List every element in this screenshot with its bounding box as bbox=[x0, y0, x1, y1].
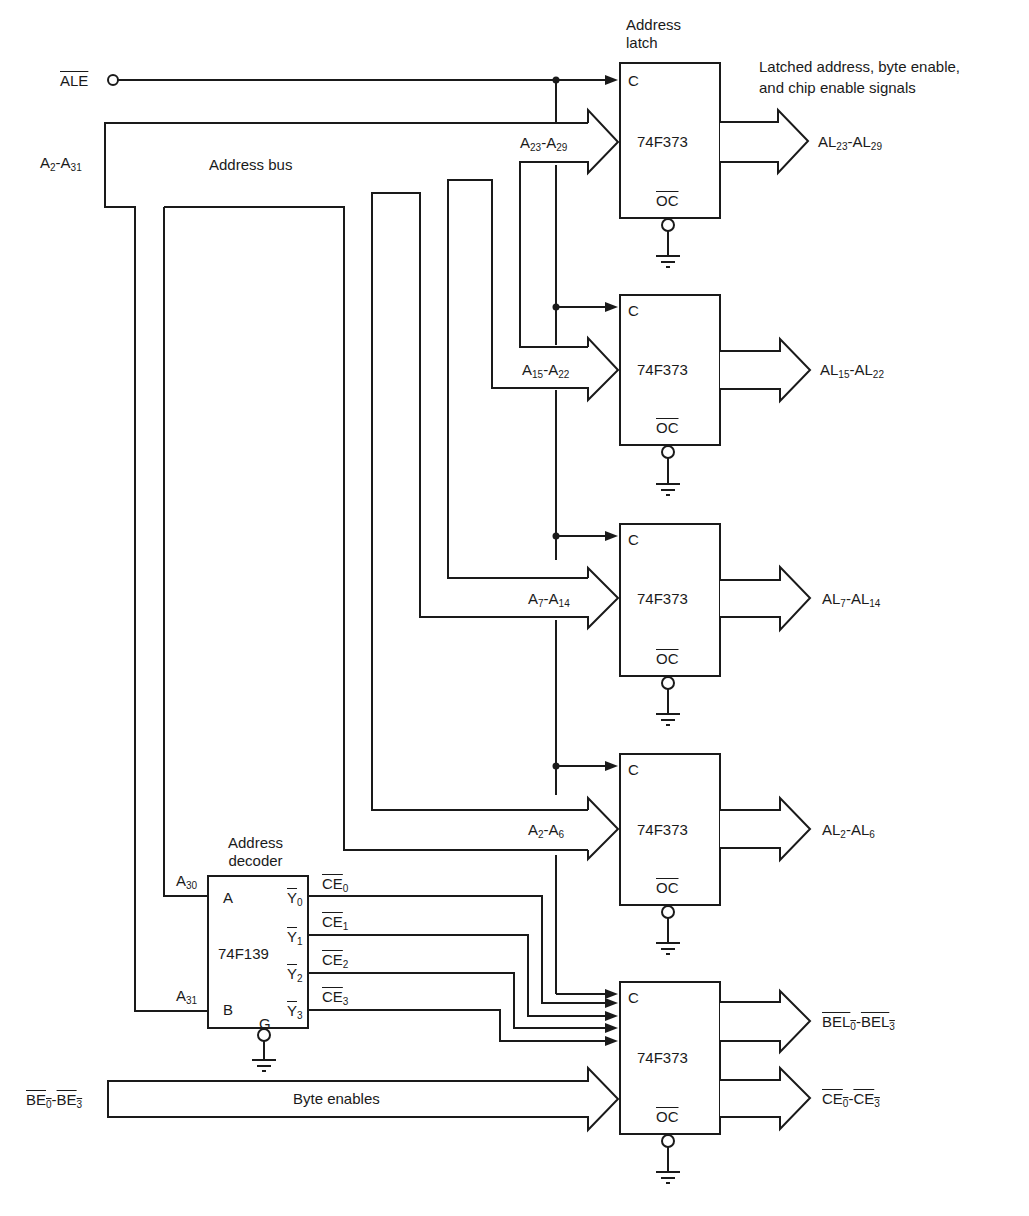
latch-title: Addresslatch bbox=[626, 16, 681, 52]
signal-ce0: CE0 bbox=[322, 876, 348, 894]
bus-label-a7-a14: A7-A14 bbox=[528, 591, 570, 609]
chip-label: 74F373 bbox=[637, 822, 688, 837]
decoder-input-a30: A30 bbox=[176, 873, 197, 891]
pin-y1: Y1 bbox=[287, 929, 303, 947]
output-al7-al14: AL7-AL14 bbox=[822, 591, 880, 609]
pin-y3: Y3 bbox=[287, 1003, 303, 1021]
clock-pin-label: C bbox=[628, 73, 639, 88]
pin-b-label: B bbox=[223, 1002, 233, 1017]
chip-label: 74F373 bbox=[637, 591, 688, 606]
oc-pin-label: OC bbox=[656, 1109, 679, 1124]
ale-label: ALE bbox=[60, 73, 88, 88]
outputs-caption: Latched address, byte enable,and chip en… bbox=[759, 56, 960, 98]
output-bel0-bel3: BEL0-BEL3 bbox=[822, 1014, 895, 1032]
output-ce0-ce3: CE0-CE3 bbox=[822, 1091, 880, 1109]
enable-pin-label: G bbox=[259, 1016, 271, 1031]
signal-ce2: CE2 bbox=[322, 952, 348, 970]
output-al2-al6: AL2-AL6 bbox=[822, 822, 875, 840]
bus-arrow-a7-a14 bbox=[372, 193, 618, 810]
bus-label-a23-a29: A23-A29 bbox=[520, 135, 567, 153]
clock-pin-label: C bbox=[628, 990, 639, 1005]
arrow-icon bbox=[605, 75, 618, 85]
signal-ce1: CE1 bbox=[322, 914, 348, 932]
decoder-input-a31: A31 bbox=[176, 988, 197, 1006]
address-bus-name: Address bus bbox=[209, 157, 292, 172]
decoder-title: Addressdecoder bbox=[228, 834, 283, 870]
oc-pin-label: OC bbox=[656, 880, 679, 895]
oc-pin-label: OC bbox=[656, 193, 679, 208]
byte-enables-signal-label: BE0-BE3 bbox=[26, 1092, 82, 1110]
clock-pin-label: C bbox=[628, 303, 639, 318]
oc-pin-label: OC bbox=[656, 420, 679, 435]
pin-y2: Y2 bbox=[287, 966, 303, 984]
oc-pin-label: OC bbox=[656, 651, 679, 666]
bus-arrow-a2-a6 bbox=[588, 798, 618, 859]
decoder-chip-label: 74F139 bbox=[218, 946, 269, 961]
address-bus-signal-label: A2-A31 bbox=[40, 155, 82, 173]
output-al15-al22: AL15-AL22 bbox=[820, 362, 884, 380]
ale-input-bubble bbox=[108, 75, 118, 85]
pin-y0: Y0 bbox=[287, 890, 303, 908]
output-al23-al29: AL23-AL29 bbox=[818, 134, 882, 152]
clock-pin-label: C bbox=[628, 532, 639, 547]
byte-enables-name: Byte enables bbox=[293, 1091, 380, 1106]
clock-pin-label: C bbox=[628, 762, 639, 777]
pin-a-label: A bbox=[223, 890, 233, 905]
chip-label: 74F373 bbox=[637, 134, 688, 149]
bus-label-a15-a22: A15-A22 bbox=[522, 362, 569, 380]
chip-label: 74F373 bbox=[637, 1050, 688, 1065]
chip-label: 74F373 bbox=[637, 362, 688, 377]
signal-ce3: CE3 bbox=[322, 989, 348, 1007]
bus-label-a2-a6: A2-A6 bbox=[528, 822, 564, 840]
